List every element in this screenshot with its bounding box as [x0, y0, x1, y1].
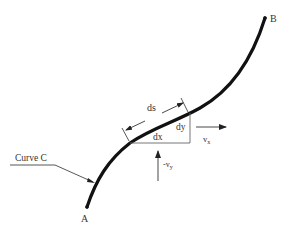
ds-extension-left	[122, 128, 129, 141]
point-b-label: B	[270, 13, 277, 24]
curve-c-leader	[10, 165, 93, 182]
ds-dimension-right	[162, 103, 183, 113]
vy-label-subscript: y	[170, 164, 173, 170]
vx-label-subscript: x	[207, 139, 210, 145]
curve-c-label: Curve C	[15, 153, 47, 163]
dx-label: dx	[153, 132, 163, 142]
diagram-canvas: A B Curve C ds dy dx vx -vy	[0, 0, 290, 231]
point-a-marker	[85, 205, 89, 209]
curve-c-leader-arrowhead	[87, 178, 95, 183]
ds-dimension-left	[126, 121, 145, 130]
vx-label: vx	[203, 134, 210, 145]
curve-c	[87, 18, 265, 207]
ds-extension-right	[181, 98, 188, 112]
point-b-marker	[263, 16, 267, 20]
diagram-svg: A B Curve C ds dy dx vx -vy	[0, 0, 290, 231]
ds-label: ds	[147, 102, 156, 113]
point-a-label: A	[81, 213, 89, 224]
vy-label: -vy	[163, 160, 173, 170]
vy-label-main: -v	[163, 160, 170, 169]
dy-label: dy	[176, 122, 186, 132]
